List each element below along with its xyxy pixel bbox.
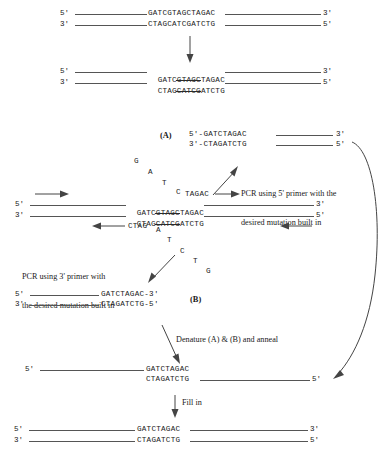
step2-bottom-left-line	[75, 83, 147, 84]
panel-a-top-sequence: 5'-GATCTAGAC	[189, 130, 247, 139]
primer-top-base-2: T	[162, 179, 167, 187]
step1-top-left-line	[75, 14, 147, 15]
panel-b-bottom-sequence: CTAGATCTG-5'	[101, 300, 159, 309]
panel-b-label: (B)	[190, 295, 201, 304]
primer-bottom-base-1: T	[167, 236, 172, 244]
step2-bottom-suffix: ATCTG	[201, 87, 225, 95]
fillin-bottom-sequence: CTAGATCTG	[137, 436, 180, 445]
fillin-top-sequence: GATCTAGAC	[137, 425, 180, 434]
step1-bottom-sequence: CTAGCATCGATCTG	[148, 20, 215, 29]
step2-top-right-line	[225, 72, 321, 73]
panel-b-top-line	[30, 295, 99, 296]
anneal-top-sequence: GATCTAGAC	[146, 365, 189, 374]
primer-top-base-1: A	[148, 168, 153, 176]
fillin-bottom-left-line	[29, 441, 135, 442]
panel-a-bottom-line	[276, 145, 333, 146]
panel-a-right-tick-bottom: 5'	[336, 140, 345, 148]
anneal-bottom-sequence: CTAGATCTG	[146, 375, 189, 384]
fillin-left-tick-top: 5'	[14, 425, 23, 433]
step2-bottom-right-line	[225, 83, 321, 84]
anneal-bottom-line	[200, 380, 310, 381]
primer-bottom-base-4: G	[206, 267, 211, 275]
primer-top-note-line1: PCR using 5' primer with the	[241, 189, 336, 199]
template-right-tick-top: 3'	[316, 200, 325, 208]
step2-left-tick-top: 5'	[60, 67, 69, 75]
step2-top-left-line	[75, 72, 147, 73]
template-left-tick-top: 5'	[15, 200, 24, 208]
panel-a-label: (A)	[160, 131, 172, 140]
step1-right-tick-bottom: 5'	[323, 20, 332, 28]
step1-right-tick-top: 3'	[323, 9, 332, 17]
primer-bottom-base-3: T	[193, 257, 198, 265]
fillin-right-tick-bottom: 5'	[310, 436, 319, 444]
fillin-caption: Fill in	[182, 398, 202, 408]
panel-b-bottom-line	[30, 305, 99, 306]
step2-left-tick-bottom: 3'	[60, 78, 69, 86]
step1-top-sequence: GATCGTAGCTAGAC	[148, 9, 215, 18]
step2-right-tick-top: 3'	[323, 67, 332, 75]
template-right-tick-bottom: 5'	[316, 211, 325, 219]
step2-right-tick-bottom: 5'	[323, 78, 332, 86]
primer-top-base-3: C	[176, 188, 181, 196]
fillin-top-left-line	[29, 430, 135, 431]
panel-a-bottom-sequence: 3'-CTAGATCTG	[189, 140, 247, 149]
step1-bottom-left-line	[75, 25, 147, 26]
panel-b-left-tick-bottom: 3'	[15, 300, 24, 308]
template-top-left-line	[30, 205, 126, 206]
anneal-caption: Denature (A) & (B) and anneal	[176, 335, 278, 345]
template-top-right-line	[204, 205, 314, 206]
panel-b-left-tick-top: 5'	[15, 290, 24, 298]
primer-top-annealed: TAGAC	[185, 190, 209, 199]
step1-left-tick-bottom: 3'	[60, 20, 69, 28]
panel-b-top-sequence: GATCTAGAC-3'	[101, 290, 159, 299]
panel-a-right-tick-top: 3'	[336, 130, 345, 138]
fillin-right-tick-top: 3'	[310, 425, 319, 433]
template-bottom-suffix: ATCTG	[180, 220, 204, 228]
primer-top-base-0: G	[134, 157, 139, 165]
primer-bottom-base-2: C	[180, 247, 185, 255]
primer-bottom-note-line1: PCR using 3' primer with	[22, 272, 114, 282]
step1-left-tick-top: 5'	[60, 9, 69, 17]
template-bottom-right-line	[204, 216, 314, 217]
step1-bottom-right-line	[225, 25, 321, 26]
primer-bottom-note: PCR using 3' primer with the desired mut…	[22, 253, 114, 320]
anneal-left-tick-top: 5'	[25, 365, 34, 373]
template-left-tick-bottom: 3'	[15, 211, 24, 219]
fillin-bottom-right-line	[190, 441, 308, 442]
step1-top-right-line	[225, 14, 321, 15]
step2-bottom-struck: CATCG	[177, 87, 201, 95]
panel-a-top-line	[276, 135, 333, 136]
step2-bottom-sequence: CTAGCATCGATCTG	[148, 78, 225, 96]
anneal-right-tick-bottom: 5'	[312, 375, 321, 383]
anneal-top-line	[40, 370, 144, 371]
template-bottom-left-line	[30, 216, 126, 217]
fillin-left-tick-bottom: 3'	[14, 436, 23, 444]
primer-bottom-base-0: A	[156, 226, 161, 234]
fillin-top-right-line	[190, 430, 308, 431]
primer-bottom-annealed: CTAG	[128, 222, 147, 231]
step2-bottom-prefix: CTAG	[158, 87, 177, 95]
